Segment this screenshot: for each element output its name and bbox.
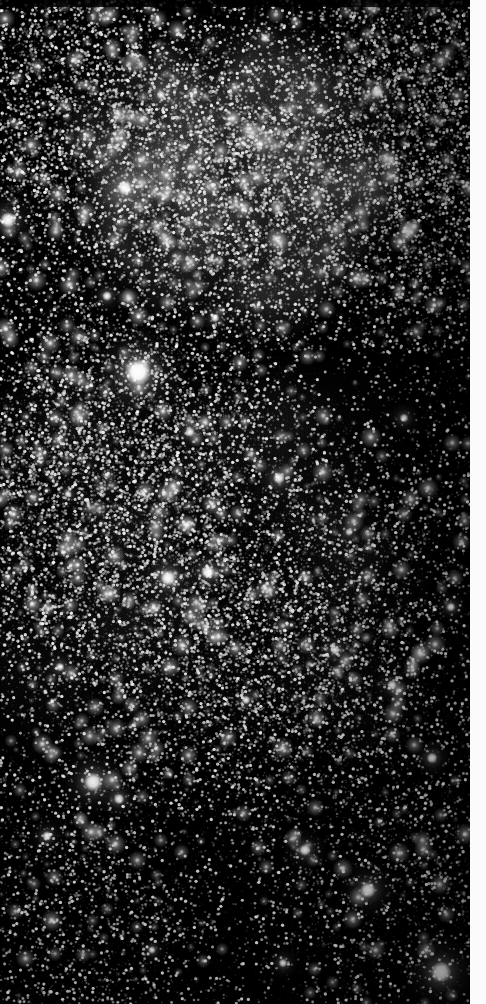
star-field-image bbox=[0, 0, 470, 1004]
screenshot-root bbox=[0, 0, 486, 1004]
star-field-canvas bbox=[0, 0, 470, 1004]
plate-right-margin bbox=[470, 0, 486, 1004]
